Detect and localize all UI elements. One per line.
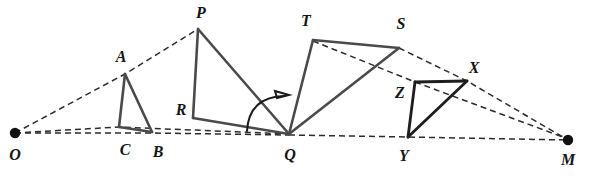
label-S: S <box>397 16 406 32</box>
ray-Q-to-M <box>289 135 568 140</box>
label-C: C <box>120 142 131 158</box>
dashed-rays-to-M <box>289 41 568 140</box>
rotation-arc-path <box>247 96 284 131</box>
label-R: R <box>176 102 187 118</box>
ray-S-to-M <box>399 48 568 140</box>
point-O-dot <box>10 128 20 138</box>
edge-Q-S <box>289 48 399 134</box>
edge-P-Q <box>198 29 289 134</box>
geometry-figure: O A C B P R Q T S Z X Y M <box>0 0 590 178</box>
ray-O-to-P <box>15 29 198 133</box>
label-Y: Y <box>399 148 409 164</box>
label-B: B <box>153 144 164 160</box>
triangle-ZYX <box>408 81 467 137</box>
edge-R-Q <box>193 118 289 134</box>
ray-T-to-M <box>313 41 568 139</box>
edge-Y-X <box>408 81 467 137</box>
label-Q: Q <box>284 147 296 163</box>
rotation-arrowhead <box>275 91 289 98</box>
edge-Z-Y <box>408 82 415 137</box>
dashed-rays-from-O <box>15 29 289 135</box>
edge-P-R <box>193 29 198 118</box>
label-A: A <box>116 49 127 65</box>
edge-A-B <box>125 74 152 132</box>
label-O: O <box>9 147 21 163</box>
label-P: P <box>196 5 206 21</box>
point-M-dot <box>563 135 573 145</box>
label-T: T <box>301 13 311 29</box>
label-X: X <box>469 60 480 76</box>
edge-T-Q <box>289 40 313 134</box>
edge-Z-X <box>415 81 467 82</box>
triangle-ABC <box>119 74 152 132</box>
edge-A-C <box>119 74 125 127</box>
label-Z: Z <box>395 85 405 101</box>
label-M: M <box>561 152 575 168</box>
triangle-PRQ <box>193 29 289 134</box>
